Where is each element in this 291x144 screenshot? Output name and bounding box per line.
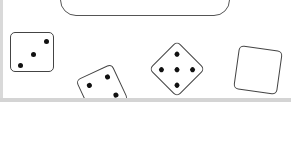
pip: [31, 52, 36, 57]
die-five: [149, 41, 206, 98]
die-three: [10, 32, 54, 72]
pip: [158, 66, 165, 73]
pip: [104, 74, 111, 81]
die-blank: [233, 45, 283, 95]
panel-left-border: [0, 0, 3, 100]
speech-bubble: The total is 13.: [60, 0, 230, 16]
pip: [173, 51, 180, 58]
pip: [173, 82, 180, 89]
pip: [18, 63, 23, 68]
pip: [173, 66, 180, 73]
pip: [189, 66, 196, 73]
total-message: The total is 13.: [61, 0, 229, 5]
pip: [44, 39, 49, 44]
dice-panel: The total is 13.: [0, 0, 291, 144]
pip: [86, 82, 93, 89]
page-background: [0, 102, 291, 144]
